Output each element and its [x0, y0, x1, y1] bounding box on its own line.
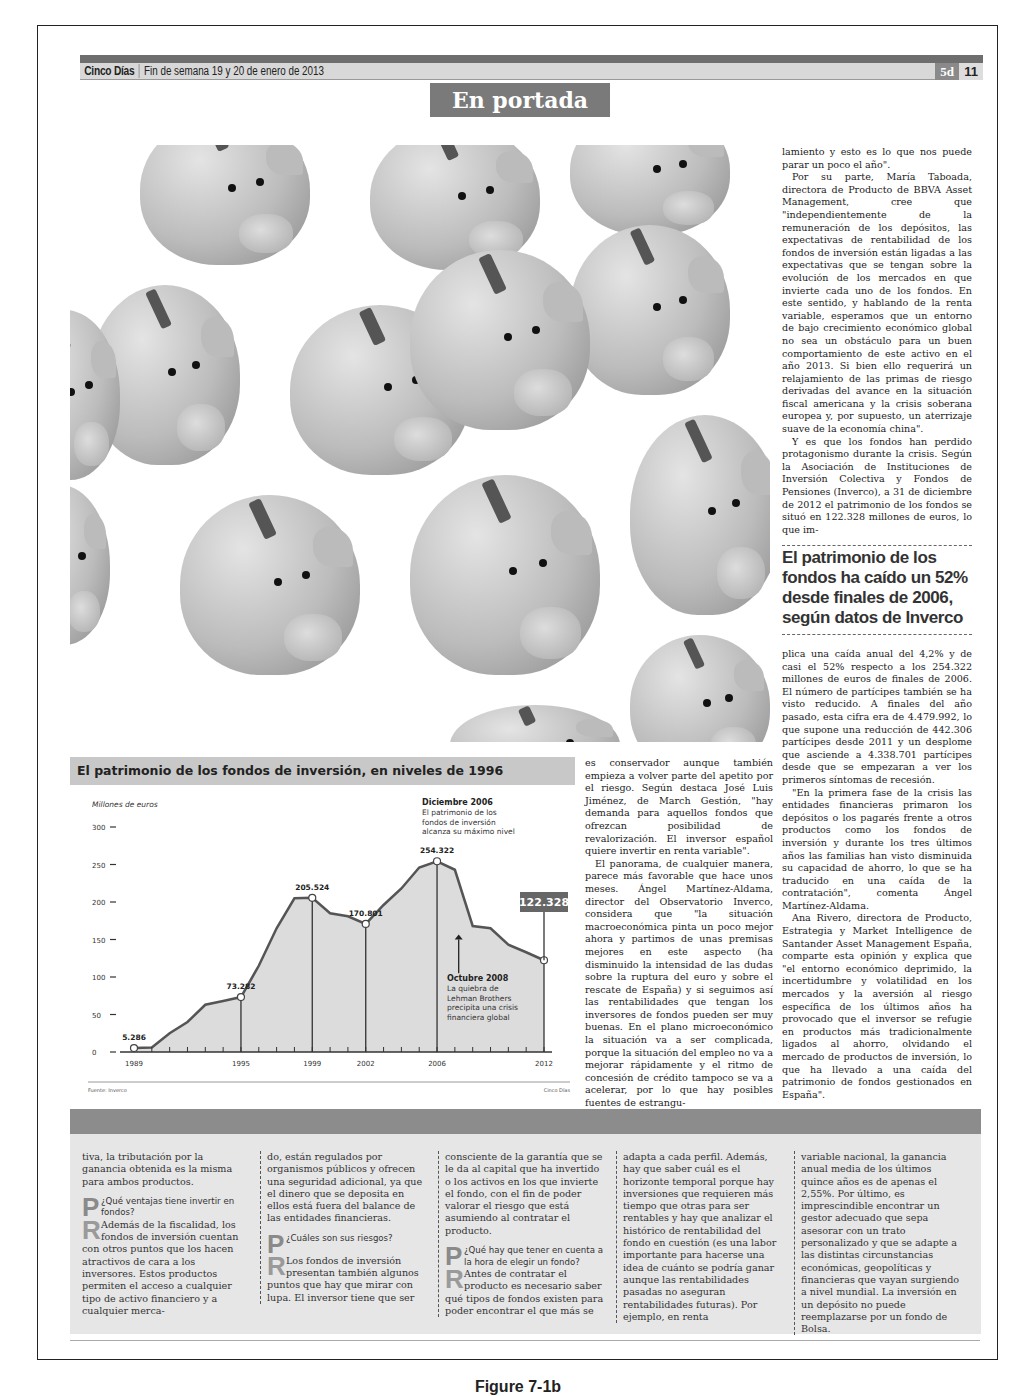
data-point-marker: [131, 1045, 138, 1052]
piggy-bank-image: [70, 485, 110, 645]
piggy-bank-image: [410, 250, 590, 430]
qa-column: do, están regulados por organismos públi…: [260, 1151, 428, 1304]
qa-column: adapta a cada perfil. Además, hay que sa…: [616, 1151, 784, 1323]
data-point-marker: [362, 920, 369, 927]
question-text: ¿Qué hay que tener en cuenta a la hora d…: [464, 1245, 603, 1267]
data-point-label: 5.286: [122, 1033, 146, 1042]
answer-dropcap: R: [267, 1255, 282, 1277]
annotation-text: El patrimonio de los: [422, 808, 497, 817]
data-point-label: 73.282: [226, 982, 255, 991]
chart-credit: Cinco Días: [544, 1087, 571, 1093]
qa-column: consciente de la garantía que se le da a…: [438, 1151, 606, 1317]
answer-dropcap: R: [82, 1219, 97, 1241]
fund-assets-chart: El patrimonio de los fondos de inversión…: [70, 757, 575, 1099]
paragraph: El panorama, de cualquier manera, parece…: [585, 858, 773, 1110]
piggy-bank-image: [570, 145, 730, 235]
piggy-bank-image: [180, 495, 360, 675]
answer-text: Antes de contratar el producto es necesa…: [445, 1268, 603, 1316]
divider: [70, 1340, 980, 1341]
chart-title: El patrimonio de los fondos de inversión…: [70, 757, 575, 785]
y-tick-label: 300: [92, 824, 105, 832]
x-tick-label: 2006: [428, 1060, 446, 1068]
qa-lead-text: adapta a cada perfil. Además, hay que sa…: [623, 1151, 784, 1323]
qa-lead-text: tiva, la tributación por la ganancia obt…: [82, 1151, 250, 1188]
question-text: ¿Qué ventajas tiene invertir en fondos?: [101, 1196, 234, 1218]
annotation-text: fondos de inversión: [422, 818, 496, 827]
chart-source: Fuente: Inverco: [88, 1087, 127, 1093]
issue-date: Fin de semana 19 y 20 de enero de 2013: [144, 64, 324, 78]
qa-column: variable nacional, la ganancia anual med…: [794, 1151, 962, 1335]
qa-panel-header-bar: [70, 1109, 981, 1134]
section-title: En portada: [430, 83, 610, 117]
page-number: 11: [959, 63, 983, 80]
paragraph: Ana Rivero, directora de Producto, Estra…: [782, 912, 972, 1101]
piggy-bank-photo: [70, 145, 770, 742]
x-tick-label: 1995: [232, 1060, 250, 1068]
piggy-bank-image: [410, 475, 600, 675]
data-point-label: 170.801: [349, 909, 383, 918]
masthead-strip: Cinco Días Fin de semana 19 y 20 de ener…: [80, 63, 983, 80]
answer-text: Además de la fiscalidad, los fondos de i…: [82, 1219, 238, 1316]
y-tick-label: 200: [92, 899, 105, 907]
y-tick-label: 0: [92, 1049, 96, 1057]
article-column-right-bottom: plica una caída anual del 4,2% y de casi…: [782, 648, 972, 1101]
brand-name: Cinco Días: [80, 64, 140, 78]
qa-lead-text: do, están regulados por organismos públi…: [267, 1151, 428, 1225]
annotation-text: La quiebra de: [447, 984, 499, 993]
data-point-label: 254.322: [420, 846, 454, 855]
article-column-right-top: lamiento y esto es lo que nos puede para…: [782, 146, 972, 536]
x-tick-label: 1989: [125, 1060, 143, 1068]
masthead-bar: [80, 55, 983, 63]
data-point-label: 205.524: [295, 883, 329, 892]
answer-dropcap: R: [445, 1268, 460, 1290]
answer-text: Los fondos de inversión presentan tambié…: [267, 1255, 419, 1303]
paragraph: "En la primera fase de la crisis las ent…: [782, 787, 972, 913]
annotation-text: Lehman Brothers: [447, 994, 511, 1003]
y-tick-label: 150: [92, 937, 105, 945]
annotation-text: alcanza su máximo nivel: [422, 827, 515, 836]
paragraph: Por su parte, María Taboada, directora d…: [782, 171, 972, 435]
question-text: ¿Cuáles son sus riesgos?: [286, 1233, 393, 1243]
qa-lead-text: variable nacional, la ganancia anual med…: [801, 1151, 962, 1335]
x-tick-label: 2012: [535, 1060, 553, 1068]
paragraph: Y es que los fondos han perdido protagon…: [782, 436, 972, 537]
qa-lead-text: consciente de la garantía que se le da a…: [445, 1151, 606, 1237]
piggy-bank-image: [630, 635, 770, 742]
figure-caption: Figure 7-1b: [0, 1378, 1036, 1396]
data-point-marker: [434, 858, 441, 865]
piggy-bank-image: [570, 225, 730, 395]
piggy-bank-image: [450, 705, 620, 742]
paragraph: lamiento y esto es lo que nos puede para…: [782, 146, 972, 171]
x-tick-label: 2002: [357, 1060, 375, 1068]
data-point-marker: [309, 894, 316, 901]
latest-value-badge: 122.328: [519, 896, 569, 909]
piggy-bank-image: [630, 415, 770, 615]
y-tick-label: 100: [92, 974, 105, 982]
paragraph: plica una caída anual del 4,2% y de casi…: [782, 648, 972, 787]
data-point-marker: [237, 994, 244, 1001]
paragraph: es conservador aunque también empieza a …: [585, 757, 773, 858]
pull-quote-headline: El patrimonio de los fondos ha caído un …: [782, 545, 972, 635]
article-column-middle: es conservador aunque también empieza a …: [585, 757, 773, 1110]
piggy-bank-image: [140, 145, 310, 265]
area-fill: [134, 861, 544, 1052]
annotation-title: Diciembre 2006: [422, 798, 493, 807]
section-code: 5d: [935, 63, 959, 80]
y-axis-label: Millones de euros: [92, 800, 158, 809]
y-tick-label: 50: [92, 1012, 101, 1020]
annotation-text: precipita una crisis: [447, 1003, 518, 1012]
qa-panel: tiva, la tributación por la ganancia obt…: [70, 1109, 981, 1334]
y-tick-label: 250: [92, 862, 105, 870]
annotation-title: Octubre 2008: [447, 974, 509, 983]
qa-column: tiva, la tributación por la ganancia obt…: [82, 1151, 250, 1317]
chart-plot: Millones de euros05010015020025030019891…: [70, 785, 575, 1099]
annotation-text: financiera global: [447, 1013, 510, 1022]
masthead: Cinco Días Fin de semana 19 y 20 de ener…: [80, 55, 983, 81]
x-tick-label: 1999: [303, 1060, 321, 1068]
